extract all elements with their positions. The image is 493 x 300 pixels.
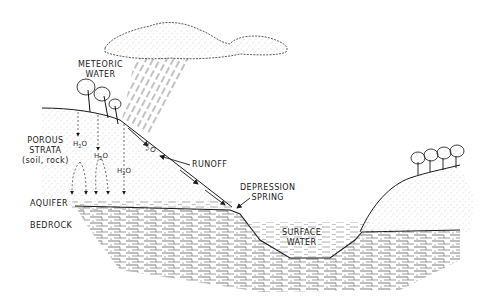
label-soil-rock: (soil, rock) [22,156,69,166]
h2o-marker: H2O [117,167,131,176]
label-surface: SURFACE [282,228,321,238]
label-depression-spring: DEPRESSION SPRING [240,183,295,203]
label-strata: STRATA [22,146,69,156]
h2o-marker: H2O [94,152,108,161]
label-meteoric-water: METEORIC WATER [78,60,123,80]
label-depression: DEPRESSION [240,183,295,193]
label-spring: SPRING [240,193,295,203]
rain-area [122,58,192,135]
label-water-2: WATER [282,238,321,248]
right-hill [360,165,475,232]
label-runoff: RUNOFF [192,160,227,170]
label-aquifer: AQUIFER [30,199,68,209]
label-meteoric: METEORIC [78,60,123,70]
hydrologic-cycle-diagram [0,0,493,300]
label-bedrock: BEDROCK [30,221,72,231]
h2o-marker: H2O [73,140,87,149]
label-water: WATER [78,70,123,80]
label-porous-strata: POROUS STRATA (soil, rock) [22,136,69,166]
cloud-icon [105,23,287,59]
label-porous: POROUS [22,136,69,146]
label-surface-water: SURFACE WATER [282,228,321,248]
